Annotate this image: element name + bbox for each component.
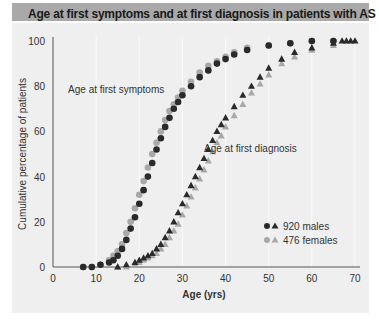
data-point-triangle <box>162 234 169 240</box>
data-point-triangle <box>201 155 208 161</box>
data-point-triangle <box>291 49 298 55</box>
data-point-triangle <box>218 121 225 127</box>
data-point-circle <box>166 115 173 122</box>
data-point-circle <box>188 83 195 90</box>
data-point-triangle <box>157 241 164 247</box>
data-point-circle <box>222 56 229 63</box>
chart-plot: 020406080100010203040506070Age (yrs)Cumu… <box>0 0 379 325</box>
data-point-circle <box>132 214 139 221</box>
data-point-triangle <box>248 89 255 95</box>
data-point-circle <box>89 264 96 271</box>
data-point-circle <box>158 135 165 142</box>
x-tick-label: 0 <box>50 273 56 284</box>
x-tick-label: 70 <box>349 273 361 284</box>
data-point-triangle <box>239 100 246 106</box>
data-point-triangle <box>183 191 190 197</box>
x-tick-label: 30 <box>177 273 189 284</box>
data-point-circle <box>97 261 104 268</box>
data-point-triangle <box>352 37 359 43</box>
legend-triangle-marker <box>272 223 279 229</box>
data-point-triangle <box>179 200 186 206</box>
data-point-triangle <box>192 173 199 179</box>
data-point-circle <box>127 225 134 232</box>
data-point-triangle <box>114 263 121 269</box>
data-point-triangle <box>196 164 203 170</box>
data-point-triangle <box>265 71 272 77</box>
legend-triangle-marker <box>272 237 279 243</box>
y-tick-label: 0 <box>39 262 45 273</box>
y-tick-label: 100 <box>28 36 45 47</box>
data-point-triangle <box>213 128 220 134</box>
y-tick-label: 40 <box>34 172 46 183</box>
x-tick-label: 10 <box>91 273 103 284</box>
data-point-triangle <box>231 112 238 118</box>
data-point-circle <box>179 92 186 99</box>
data-point-triangle <box>257 73 264 79</box>
data-point-triangle <box>222 114 229 120</box>
data-point-triangle <box>257 80 264 86</box>
x-axis-title: Age (yrs) <box>182 289 225 300</box>
annotation-label: Age at first symptoms <box>68 84 164 95</box>
data-point-circle <box>309 38 316 45</box>
data-point-triangle <box>175 209 182 215</box>
y-axis-title: Cumulative percentage of patients <box>17 78 28 230</box>
data-point-circle <box>287 40 294 47</box>
annotation-label: Age at first diagnosis <box>204 143 297 154</box>
data-point-circle <box>149 160 156 167</box>
data-point-circle <box>153 146 160 153</box>
data-point-circle <box>214 60 221 67</box>
data-point-triangle <box>239 91 246 97</box>
data-point-triangle <box>308 44 315 50</box>
legend-label: 920 males <box>283 221 329 232</box>
legend-circle-marker <box>264 223 270 229</box>
data-point-triangle <box>123 261 130 267</box>
legend-label: 476 females <box>283 235 337 246</box>
data-point-triangle <box>188 182 195 188</box>
y-tick-label: 80 <box>34 81 46 92</box>
data-point-circle <box>140 187 147 194</box>
data-point-circle <box>205 67 212 74</box>
y-tick-label: 60 <box>34 126 46 137</box>
data-point-circle <box>171 106 178 113</box>
legend-circle-marker <box>264 237 270 243</box>
data-point-triangle <box>166 227 173 233</box>
data-point-circle <box>119 246 126 253</box>
data-point-circle <box>244 47 251 54</box>
data-point-circle <box>145 173 152 180</box>
data-point-circle <box>80 264 87 271</box>
y-tick-label: 20 <box>34 217 46 228</box>
data-point-circle <box>231 51 238 58</box>
data-point-circle <box>136 200 143 207</box>
data-point-circle <box>114 252 121 259</box>
data-point-circle <box>123 237 130 244</box>
data-point-triangle <box>248 82 255 88</box>
x-tick-label: 40 <box>220 273 232 284</box>
data-point-triangle <box>231 103 238 109</box>
x-tick-label: 60 <box>306 273 318 284</box>
x-tick-label: 50 <box>263 273 275 284</box>
data-point-circle <box>196 74 203 81</box>
data-point-circle <box>175 99 182 106</box>
x-tick-label: 20 <box>134 273 146 284</box>
data-point-triangle <box>278 55 285 61</box>
data-point-triangle <box>170 218 177 224</box>
data-point-circle <box>162 124 169 131</box>
data-point-triangle <box>265 64 272 70</box>
data-point-circle <box>265 42 272 49</box>
